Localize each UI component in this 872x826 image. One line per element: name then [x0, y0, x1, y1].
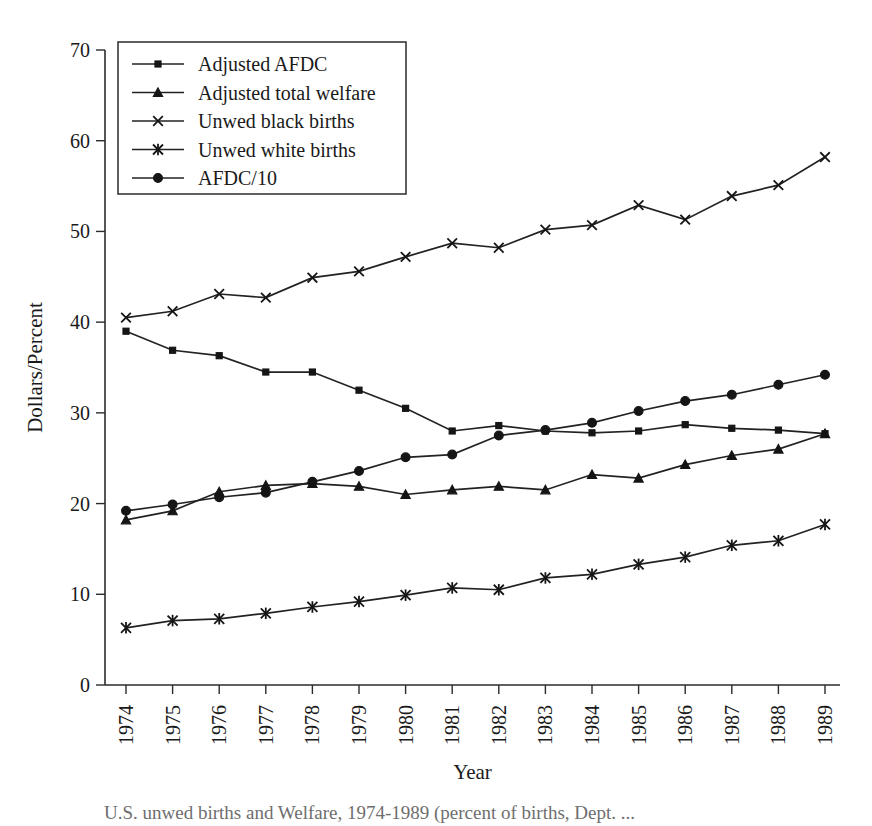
x-tick-label: 1982	[488, 705, 510, 745]
x-tick-label: 1974	[115, 705, 137, 745]
legend-label: Adjusted total welfare	[198, 82, 376, 105]
line-chart: 0102030405060701974197519761977197819791…	[0, 0, 872, 790]
x-tick-label: 1986	[674, 705, 696, 745]
x-tick-label: 1976	[208, 705, 230, 745]
x-tick-label: 1979	[348, 705, 370, 745]
x-tick-label: 1984	[581, 705, 603, 745]
y-tick-label: 70	[70, 39, 90, 61]
marker-square	[170, 347, 176, 353]
marker-square	[636, 428, 642, 434]
marker-circle	[727, 390, 736, 399]
marker-circle	[774, 380, 783, 389]
figure-caption: U.S. unwed births and Welfare, 1974-1989…	[104, 800, 872, 826]
marker-circle	[634, 407, 643, 416]
x-axis-title: Year	[453, 760, 492, 784]
marker-circle	[154, 174, 163, 183]
series-1	[123, 328, 828, 437]
series-4	[121, 519, 830, 634]
legend-label: Unwed black births	[198, 110, 355, 132]
series-5	[122, 370, 830, 515]
y-tick-label: 0	[80, 674, 90, 696]
x-tick-label: 1980	[395, 705, 417, 745]
marker-square	[403, 405, 409, 411]
marker-circle	[168, 500, 177, 509]
legend-label: Unwed white births	[198, 139, 356, 161]
marker-square	[123, 328, 129, 334]
marker-square	[729, 425, 735, 431]
marker-circle	[448, 450, 457, 459]
marker-square	[356, 387, 362, 393]
marker-circle	[541, 426, 550, 435]
marker-square	[309, 369, 315, 375]
y-tick-label: 20	[70, 493, 90, 515]
marker-square	[155, 61, 161, 67]
series-2	[121, 429, 829, 524]
marker-square	[263, 369, 269, 375]
marker-square	[216, 353, 222, 359]
marker-circle	[401, 453, 410, 462]
legend-label: Adjusted AFDC	[198, 53, 327, 76]
x-tick-label: 1989	[814, 705, 836, 745]
x-tick-label: 1978	[301, 705, 323, 745]
marker-circle	[355, 467, 364, 476]
marker-circle	[681, 397, 690, 406]
y-tick-label: 40	[70, 311, 90, 333]
marker-circle	[588, 418, 597, 427]
marker-square	[682, 422, 688, 428]
marker-square	[449, 428, 455, 434]
legend-label: AFDC/10	[198, 167, 277, 189]
marker-circle	[215, 493, 224, 502]
x-tick-label: 1987	[721, 705, 743, 745]
marker-square	[589, 430, 595, 436]
marker-square	[775, 427, 781, 433]
x-tick-label: 1983	[534, 705, 556, 745]
x-tick-label: 1985	[628, 705, 650, 745]
y-tick-label: 50	[70, 220, 90, 242]
chart-legend: Adjusted AFDCAdjusted total welfareUnwed…	[118, 42, 406, 194]
x-tick-label: 1988	[767, 705, 789, 745]
marker-circle	[821, 370, 830, 379]
marker-circle	[122, 506, 131, 515]
series-line	[126, 434, 825, 520]
x-tick-label: 1975	[162, 705, 184, 745]
y-tick-label: 10	[70, 583, 90, 605]
y-tick-label: 60	[70, 130, 90, 152]
y-tick-label: 30	[70, 402, 90, 424]
x-tick-label: 1977	[255, 705, 277, 745]
marker-square	[496, 423, 502, 429]
y-axis-title: Dollars/Percent	[23, 302, 47, 433]
marker-circle	[494, 431, 503, 440]
series-line	[126, 524, 825, 627]
x-tick-label: 1981	[441, 705, 463, 745]
series-line	[126, 331, 825, 434]
marker-circle	[261, 488, 270, 497]
marker-circle	[308, 477, 317, 486]
